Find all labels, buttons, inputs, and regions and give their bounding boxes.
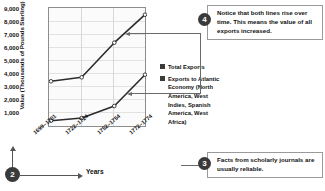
x-axis-title: Years (86, 168, 104, 175)
data-point (80, 76, 84, 80)
legend-item-atlantic-exports: Exports to Atlantic Economy (North Ameri… (160, 75, 226, 127)
y-tick-label-8000: 8,000 (0, 19, 19, 25)
data-point (113, 104, 117, 108)
y-tick-label-7000: 7,000 (0, 32, 19, 38)
chart-legend: Total Exports Exports to Atlantic Econom… (160, 63, 226, 130)
y-tick-label-5000: 5,000 (0, 58, 19, 64)
legend-label-atlantic-exports: Exports to Atlantic Economy (North Ameri… (168, 75, 226, 127)
leader-line-top (129, 33, 201, 34)
y-tick-label-2000: 2,000 (0, 97, 19, 103)
y-tick-label-6000: 6,000 (0, 45, 19, 51)
leader-line-vertical (200, 33, 201, 93)
y-tick-label-3000: 3,000 (0, 84, 19, 90)
callout-box-4: Notice that both lines rise over time. T… (207, 5, 323, 40)
step-marker-3: 3 (198, 157, 211, 170)
callout-text-4: Notice that both lines rise over time. T… (217, 9, 318, 36)
data-point (143, 13, 147, 17)
callout-box-3: Facts from scholarly journals are usuall… (207, 152, 323, 178)
step-marker-4: 4 (198, 13, 211, 26)
leader-line-bottom (131, 93, 201, 94)
x-axis-arrow-icon (20, 175, 78, 176)
step-marker-2: 2 (5, 167, 20, 182)
callout-text-3: Facts from scholarly journals are usuall… (217, 156, 318, 174)
leader-line-callout-3 (181, 165, 199, 166)
y-tick-label-1000: 1,000 (0, 110, 19, 116)
plot-area (48, 7, 146, 127)
y-axis-arrow-icon (12, 150, 13, 168)
series-lines (49, 8, 147, 128)
y-tick-label-9000: 9,000 (0, 6, 19, 12)
line-atlantic-exports (51, 75, 145, 121)
data-point (49, 80, 53, 84)
line-total-exports (51, 15, 145, 82)
data-point (113, 41, 117, 45)
legend-item-total-exports: Total Exports (160, 63, 226, 72)
data-point (143, 73, 147, 77)
legend-swatch-icon (160, 76, 165, 81)
legend-swatch-icon (160, 64, 165, 69)
data-points-total-exports (49, 13, 147, 83)
y-tick-label-4000: 4,000 (0, 71, 19, 77)
